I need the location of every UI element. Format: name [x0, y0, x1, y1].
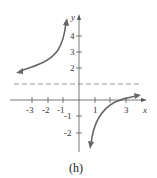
figure-caption: (h): [69, 161, 83, 175]
arrow-icon: [88, 141, 94, 149]
x-tick-label: 1: [93, 105, 98, 115]
y-tick-label: 4: [70, 31, 75, 41]
arrow-icon: [16, 68, 23, 74]
arrow-icon: [63, 18, 69, 26]
y-tick-label: 2: [70, 63, 75, 73]
x-tick-label: -2: [42, 105, 50, 115]
y-axis-arrow-icon: [77, 14, 81, 20]
y-tick-label: 3: [70, 47, 75, 57]
x-tick-label: -3: [26, 105, 34, 115]
y-axis-label: y: [70, 12, 75, 22]
x-axis-arrow-icon: [141, 98, 147, 102]
x-tick-label: 3: [124, 105, 129, 115]
right-branch-curve: [91, 96, 136, 144]
arrow-icon: [134, 93, 141, 99]
graph: -3 -2 -1 1 3 x 4 3 2 -1 -2 y (h): [0, 0, 157, 178]
y-tick-label: -1: [64, 111, 72, 121]
left-branch-curve: [20, 23, 66, 71]
y-tick-label: -2: [64, 128, 72, 138]
x-axis-label: x: [142, 105, 147, 115]
